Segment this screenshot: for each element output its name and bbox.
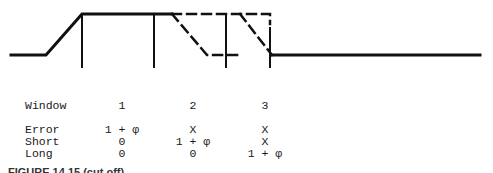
row-long-col-2: 0 <box>190 148 197 160</box>
header-col-1: 1 <box>119 100 126 112</box>
header-col-3: 3 <box>262 100 269 112</box>
row-long-col-3: 1 + φ <box>248 148 283 160</box>
figure-caption: FIGURE 14.15 (cut off) <box>8 166 124 173</box>
dashed-fall-1 <box>172 14 240 55</box>
header-col-2: 2 <box>190 100 197 112</box>
header-label: Window <box>25 100 66 112</box>
dashed-top <box>172 14 270 24</box>
timing-waveform-diagram <box>0 0 493 80</box>
row-long-label: Long <box>25 148 53 160</box>
row-long-col-1: 0 <box>119 148 126 160</box>
solid-pulse-leading <box>11 14 172 55</box>
dashed-fall-2 <box>240 14 272 55</box>
